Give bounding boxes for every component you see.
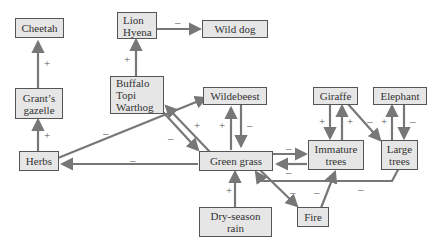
edge-fire-immature xyxy=(321,172,335,208)
sign-grass-buffalo: + xyxy=(194,120,200,131)
sign-fire-immature: – xyxy=(314,187,320,198)
node-elephant: Elephant xyxy=(373,87,427,105)
node-dry-season-rain: Dry-season rain xyxy=(199,207,272,237)
node-wild-dog: Wild dog xyxy=(202,20,268,38)
sign-wildebeest-grass: – xyxy=(247,120,253,131)
sign-elephant-large: – xyxy=(410,116,416,127)
edge-buffalo-grass xyxy=(163,112,198,150)
sign-gazelle-cheetah: + xyxy=(44,58,50,69)
node-wildebeest: Wildebeest xyxy=(203,87,267,105)
sign-immature-giraffe: + xyxy=(347,116,353,127)
sign-grass-fire: – xyxy=(290,187,296,198)
sign-herbs-gazelle: + xyxy=(44,130,50,141)
sign-giraffe-large: – xyxy=(367,116,373,127)
node-immature-trees: Immature trees xyxy=(308,140,364,170)
node-fire: Fire xyxy=(297,207,329,227)
edge-grass-buffalo xyxy=(166,106,210,152)
node-grants-gazelle: Grant’s gazelle xyxy=(15,88,63,119)
sign-lion-wilddog: – xyxy=(175,17,181,28)
node-cheetah: Cheetah xyxy=(15,18,64,38)
sign-grass-herbs: – xyxy=(130,155,136,166)
node-giraffe: Giraffe xyxy=(313,87,358,105)
node-lion-hyena: Lion Hyena xyxy=(117,12,157,39)
sign-grass-immature: – xyxy=(286,143,292,154)
node-herbs: Herbs xyxy=(19,151,59,171)
node-green-grass: Green grass xyxy=(199,151,273,171)
sign-immature-grass: – xyxy=(286,167,292,178)
sign-herbs-wildebeest: – xyxy=(103,128,109,139)
sign-buffalo-lion: + xyxy=(124,54,130,65)
node-buffalo-topi-warthog: Buffalo Topi Warthog xyxy=(110,76,164,114)
sign-large-elephant: + xyxy=(381,116,387,127)
sign-giraffe-immature: + xyxy=(319,116,325,127)
sign-rain-grass: + xyxy=(226,185,232,196)
sign-grass-wildebeest: + xyxy=(219,120,225,131)
node-large-trees: Large trees xyxy=(381,140,418,170)
sign-large-grass: – xyxy=(358,184,364,195)
sign-buffalo-grass: – xyxy=(168,133,174,144)
